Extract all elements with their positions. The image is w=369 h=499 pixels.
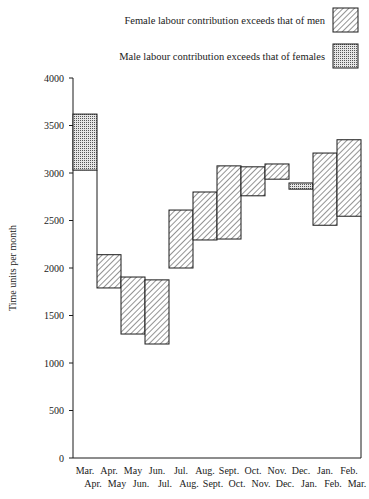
y-tick-label: 3000 [44,168,64,179]
legend-swatch-hatch [333,8,358,32]
month-label-bottom: Jun. [133,478,149,489]
bar-jan-feb [313,153,337,225]
month-label-top: Jul. [174,465,188,476]
y-tick-label: 1000 [44,358,64,369]
bar-oct-nov [241,167,265,196]
bar-jul-aug [169,210,193,268]
bar-dec-jan [289,183,313,189]
y-tick-label: 500 [49,405,64,416]
month-label-bottom: Sept. [203,478,223,489]
month-label-top: Jan. [317,465,333,476]
y-tick-label: 1500 [44,310,64,321]
month-label-top: Nov. [267,465,286,476]
y-tick-label: 2500 [44,215,64,226]
month-label-bottom: Jan. [301,478,317,489]
y-tick-label: 0 [59,453,64,464]
month-label-top: Apr. [100,465,118,476]
month-label-bottom: Dec. [276,478,295,489]
month-label-bottom: Mar. [348,478,367,489]
month-label-top: Sept. [219,465,239,476]
month-label-bottom: Aug. [179,478,199,489]
bar-aug-sept [193,192,217,240]
month-label-bottom: Oct. [229,478,246,489]
month-label-bottom: Apr. [84,478,102,489]
labour-contribution-chart: Female labour contribution exceeds that … [0,0,369,499]
bar-apr-may [97,255,121,288]
month-label-bottom: Jul. [158,478,172,489]
bars [73,114,361,344]
bar-mar-apr [73,114,97,170]
month-label-top: Aug. [195,465,215,476]
month-label-top: Feb. [340,465,358,476]
month-label-top: Dec. [292,465,311,476]
legend: Female labour contribution exceeds that … [119,8,358,68]
month-label-bottom: May [108,478,126,489]
month-label-top: Oct. [245,465,262,476]
bar-may-jun [121,277,145,334]
y-axis-ticks: 05001000150020002500300035004000 [44,73,73,464]
month-label-top: May [124,465,142,476]
legend-swatch-dots [333,44,358,68]
legend-label-female: Female labour contribution exceeds that … [124,15,325,26]
bar-feb-mar [337,140,361,216]
y-tick-label: 2000 [44,263,64,274]
bar-nov-dec [265,164,289,179]
month-label-bottom: Nov. [251,478,270,489]
month-label-top: Jun. [149,465,165,476]
y-axis-title: Time units per month [7,225,18,311]
y-tick-label: 3500 [44,120,64,131]
month-label-bottom: Feb. [324,478,342,489]
legend-label-male: Male labour contribution exceeds that of… [119,51,325,62]
y-tick-label: 4000 [44,73,64,84]
bar-jun-jul [145,280,169,344]
bar-sept-oct [217,166,241,239]
month-label-top: Mar. [76,465,95,476]
x-axis-month-labels: Mar.Apr.MayJun.Jul.Aug.Sept.Oct.Nov.Dec.… [76,465,367,489]
